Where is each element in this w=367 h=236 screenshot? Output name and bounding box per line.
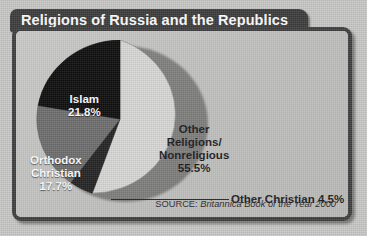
chart-title: Religions of Russia and the Republics [21, 12, 288, 28]
pie-label-other-name-1: Other [179, 123, 210, 135]
pie-label-other-name-3: Nonreligious [159, 149, 229, 161]
pie-label-other-name-2: Religions/ [167, 136, 222, 148]
pie-label-islam-value: 21.8% [68, 106, 101, 118]
pie-label-other-value: 55.5% [178, 162, 211, 174]
pie-label-other-religions: Other Religions/ Nonreligious 55.5% [159, 123, 229, 175]
pie-label-islam: Islam 21.8% [68, 93, 101, 119]
chart-screenshot: Religions of Russia and the Republics Is… [0, 0, 367, 236]
pie-label-orthodox-name-2: Christian [31, 167, 81, 179]
chart-panel-surface: Islam 21.8% Orthodox Christian 17.7% Oth… [16, 31, 348, 217]
source-prefix: SOURCE: [155, 199, 197, 209]
pie-label-islam-name: Islam [70, 93, 99, 105]
source-attribution: SOURCE: Britannica Book of the Year 2000 [155, 199, 336, 209]
pie-label-orthodox-name-1: Orthodox [30, 154, 82, 166]
pie-label-orthodox-value: 17.7% [40, 180, 73, 192]
chart-panel: Islam 21.8% Orthodox Christian 17.7% Oth… [12, 27, 352, 221]
pie-label-orthodox-christian: Orthodox Christian 17.7% [30, 154, 82, 193]
source-reference: Britannica Book of the Year 2000 [200, 199, 336, 209]
